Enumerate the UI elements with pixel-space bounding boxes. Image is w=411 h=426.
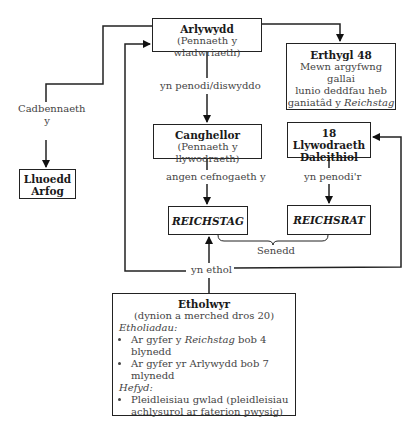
etholiadau-heading: Etholiadau: — [119, 322, 289, 334]
cadbennaeth-label: Cadbennaeth y — [18, 103, 76, 127]
reichsrat-title: REICHSRAT — [288, 214, 370, 226]
canghellor-subtitle: (Pennaeth y llywodraeth) — [154, 141, 261, 165]
erthygl-line3-italic: Reichstag — [344, 97, 394, 108]
llywodraeth-box: 18 Llywodraeth Daleithiol — [287, 122, 371, 158]
reichstag-title: REICHSTAG — [169, 215, 247, 227]
bullet1-italic: Reichstag — [185, 334, 235, 345]
llywodraeth-line2: Daleithiol — [288, 151, 370, 163]
etholiadau-list: Ar gyfer y Reichstag bob 4 blynedd Ar gy… — [119, 334, 289, 382]
erthygl-line2: lunio deddfau heb — [287, 85, 395, 97]
line-arlywydd-cadbennaeth — [46, 26, 152, 102]
lluoedd-line2: Arfog — [20, 185, 75, 197]
arlywydd-title: Arlywydd — [153, 23, 261, 35]
ethol-label: yn ethol — [189, 264, 234, 276]
erthygl-line1: Mewn argyfwng gallai — [287, 61, 395, 85]
hefyd-list: Pleidleisiau gwlad (pleidleisiauachlysur… — [119, 394, 289, 418]
penodi-label: yn penodi/diswyddo — [160, 80, 261, 92]
lluoedd-line1: Lluoedd — [20, 173, 75, 185]
etholwyr-title: Etholwyr — [119, 298, 289, 310]
hefyd-heading: Hefyd: — [119, 382, 289, 394]
etholwyr-subtitle: (dynion a merched dros 20) — [119, 310, 289, 322]
etholwyr-box: Etholwyr (dynion a merched dros 20) Etho… — [112, 293, 296, 416]
senedd-label: Senedd — [257, 245, 295, 257]
bullet1-prefix: Ar gyfer y — [131, 334, 185, 345]
cadbennaeth-line1: Cadbennaeth — [18, 103, 76, 115]
erthygl-title: Erthygl 48 — [287, 49, 395, 61]
arlywydd-subtitle: (Pennaeth y wladwriaeth) — [153, 35, 261, 59]
reichstag-box: REICHSTAG — [168, 206, 248, 235]
arrow-to-erthygl — [262, 24, 340, 41]
lluoedd-box: Lluoedd Arfog — [19, 169, 76, 199]
canghellor-title: Canghellor — [154, 129, 261, 141]
bullet-arlywydd: Ar gyfer yr Arlywydd bob 7 mlynedd — [131, 358, 289, 382]
bullet3-line1: Pleidleisiau gwlad (pleidleisiau — [131, 394, 288, 405]
bullet-pleidleisiau: Pleidleisiau gwlad (pleidleisiauachlysur… — [131, 394, 289, 418]
erthygl-box: Erthygl 48 Mewn argyfwng gallai lunio de… — [286, 43, 396, 110]
llywodraeth-line1: 18 Llywodraeth — [288, 127, 370, 151]
penodir-label: yn penodi'r — [304, 171, 361, 183]
canghellor-box: Canghellor (Pennaeth y llywodraeth) — [153, 124, 262, 159]
bullet-reichstag: Ar gyfer y Reichstag bob 4 blynedd — [131, 334, 289, 358]
erthygl-line3: ganiatâd y Reichstag — [287, 97, 395, 109]
cefnogaeth-label: angen cefnogaeth y — [166, 171, 266, 183]
reichsrat-box: REICHSRAT — [287, 205, 371, 235]
arlywydd-box: Arlywydd (Pennaeth y wladwriaeth) — [152, 18, 262, 52]
cadbennaeth-line2: y — [18, 115, 76, 127]
bullet3-line2: achlysurol ar faterion pwysig) — [131, 406, 283, 417]
erthygl-line3-prefix: ganiatâd y — [288, 97, 344, 108]
